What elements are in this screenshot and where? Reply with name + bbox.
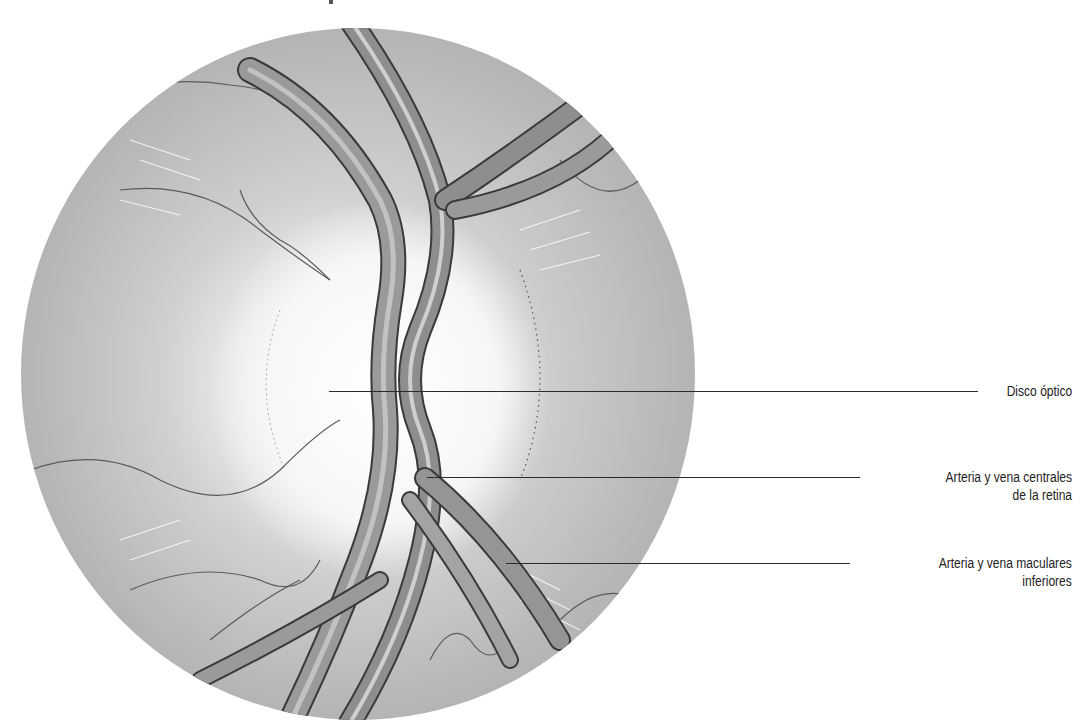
cropped-text-fragment xyxy=(329,0,333,4)
label-text-line-2: inferiores xyxy=(939,572,1072,590)
leader-line-inferior-macular xyxy=(506,563,850,564)
leader-line-central-vessels xyxy=(427,477,860,478)
label-text-line-1: Arteria y vena centrales xyxy=(946,468,1072,486)
label-optic-disc: Disco óptico xyxy=(1006,382,1072,400)
leader-line-optic-disc xyxy=(329,391,978,392)
label-text-line-2: de la retina xyxy=(946,486,1072,504)
label-inferior-macular-vessels: Arteria y vena maculares inferiores xyxy=(939,554,1072,590)
fundus-illustration xyxy=(0,0,1080,723)
label-central-retinal-vessels: Arteria y vena centrales de la retina xyxy=(946,468,1072,504)
label-text: Disco óptico xyxy=(1006,382,1072,400)
label-text-line-1: Arteria y vena maculares xyxy=(939,554,1072,572)
